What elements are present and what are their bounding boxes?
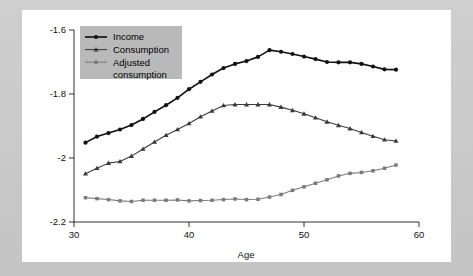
data-point bbox=[244, 59, 248, 63]
data-point bbox=[118, 127, 122, 131]
data-point bbox=[164, 103, 168, 107]
data-point bbox=[199, 199, 203, 203]
line-chart: -1.6-1.8-2-2.2 30405060 Age IncomeConsum… bbox=[22, 10, 451, 262]
data-point bbox=[140, 147, 145, 151]
data-point bbox=[279, 50, 283, 54]
legend-item: consumption bbox=[113, 69, 167, 80]
data-point bbox=[141, 198, 145, 202]
legend-label: Consumption bbox=[113, 44, 169, 55]
figure-frame: -1.6-1.8-2-2.2 30405060 Age IncomeConsum… bbox=[0, 0, 473, 276]
legend-label: consumption bbox=[113, 69, 167, 80]
y-axis-ticks: -1.6-1.8-2-2.2 bbox=[50, 24, 74, 227]
data-point bbox=[302, 54, 306, 58]
legend-marker-sample bbox=[94, 35, 98, 39]
data-point bbox=[336, 60, 340, 64]
data-point bbox=[383, 166, 387, 170]
data-point bbox=[187, 199, 191, 203]
data-point bbox=[325, 178, 329, 182]
x-axis-ticks: 30405060 bbox=[69, 222, 425, 240]
data-point bbox=[291, 189, 295, 193]
data-point bbox=[290, 52, 294, 56]
data-point bbox=[187, 87, 191, 91]
legend-label: Adjusted bbox=[113, 57, 150, 68]
data-point bbox=[153, 198, 157, 202]
legend-marker-sample bbox=[94, 60, 98, 64]
data-point bbox=[221, 66, 225, 70]
data-point bbox=[313, 57, 317, 61]
series-adjusted-consumption bbox=[84, 163, 398, 203]
data-point bbox=[164, 198, 168, 202]
data-point bbox=[95, 197, 99, 201]
data-point bbox=[198, 80, 202, 84]
data-point bbox=[302, 185, 306, 189]
data-point bbox=[210, 72, 214, 76]
series-consumption bbox=[83, 102, 399, 175]
data-point bbox=[176, 198, 180, 202]
y-tick-label: -2 bbox=[58, 152, 66, 163]
data-point bbox=[394, 68, 398, 72]
data-point bbox=[152, 110, 156, 114]
data-point bbox=[256, 55, 260, 59]
data-point bbox=[245, 198, 249, 202]
x-axis-title: Age bbox=[238, 249, 255, 260]
y-tick-label: -1.6 bbox=[50, 24, 66, 35]
data-point bbox=[129, 123, 133, 127]
data-point bbox=[152, 139, 157, 143]
data-point bbox=[186, 121, 191, 125]
data-point bbox=[256, 198, 260, 202]
data-point bbox=[279, 193, 283, 197]
x-tick-label: 30 bbox=[69, 229, 80, 240]
data-point bbox=[233, 197, 237, 201]
data-point bbox=[175, 96, 179, 100]
data-point bbox=[314, 182, 318, 186]
series-line bbox=[86, 105, 397, 174]
data-point bbox=[84, 196, 88, 200]
data-point bbox=[359, 62, 363, 66]
data-point bbox=[233, 62, 237, 66]
data-point bbox=[130, 200, 134, 204]
x-tick-label: 50 bbox=[299, 229, 310, 240]
data-point bbox=[268, 195, 272, 199]
data-point bbox=[210, 198, 214, 202]
x-tick-label: 60 bbox=[414, 229, 425, 240]
data-point bbox=[106, 131, 110, 135]
data-point bbox=[382, 67, 386, 71]
data-point bbox=[394, 163, 398, 167]
legend-label: Income bbox=[113, 31, 144, 42]
y-tick-label: -2.2 bbox=[50, 216, 66, 227]
data-point bbox=[83, 141, 87, 145]
x-tick-label: 40 bbox=[184, 229, 195, 240]
data-point bbox=[107, 198, 111, 202]
data-point bbox=[348, 172, 352, 176]
y-tick-label: -1.8 bbox=[50, 88, 66, 99]
data-point bbox=[95, 134, 99, 138]
data-point bbox=[129, 154, 134, 158]
data-point bbox=[337, 174, 341, 178]
chart-card: -1.6-1.8-2-2.2 30405060 Age IncomeConsum… bbox=[22, 10, 451, 262]
data-point bbox=[118, 199, 122, 203]
data-point bbox=[348, 60, 352, 64]
series-line bbox=[86, 165, 397, 201]
data-point bbox=[325, 60, 329, 64]
chart-legend: IncomeConsumptionAdjustedconsumption bbox=[80, 26, 182, 80]
data-point bbox=[141, 117, 145, 121]
data-point bbox=[371, 169, 375, 173]
data-point bbox=[222, 198, 226, 202]
data-point bbox=[371, 64, 375, 68]
data-point bbox=[267, 48, 271, 52]
data-point bbox=[360, 171, 364, 175]
